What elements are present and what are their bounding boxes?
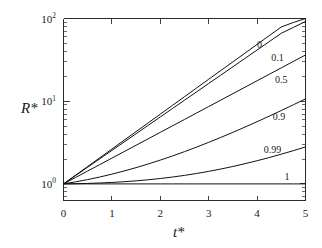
curve-label-0.5: 0.5 bbox=[275, 74, 288, 85]
x-tick-label-2: 2 bbox=[158, 207, 164, 219]
semilog-plot: 100101102 012345 00.10.50.90.991 R* t* bbox=[0, 0, 322, 248]
curve-label-1: 1 bbox=[285, 171, 290, 182]
x-axis-title: t* bbox=[173, 224, 185, 240]
x-tick-label-5: 5 bbox=[303, 207, 309, 219]
curve-label-0.1: 0.1 bbox=[271, 52, 284, 63]
curve-label-0: 0 bbox=[257, 39, 262, 50]
x-axis-title-text: t* bbox=[173, 224, 185, 240]
y-axis-title: R* bbox=[20, 100, 38, 116]
x-tick-label-0: 0 bbox=[61, 207, 67, 219]
curve-label-0.99: 0.99 bbox=[264, 144, 282, 155]
x-tick-label-1: 1 bbox=[109, 207, 115, 219]
curve-label-0.9: 0.9 bbox=[273, 111, 286, 122]
chart-figure: 100101102 012345 00.10.50.90.991 R* t* bbox=[0, 0, 322, 248]
y-axis-title-text: R* bbox=[20, 100, 38, 116]
x-tick-label-4: 4 bbox=[254, 207, 260, 219]
x-tick-label-3: 3 bbox=[206, 207, 212, 219]
